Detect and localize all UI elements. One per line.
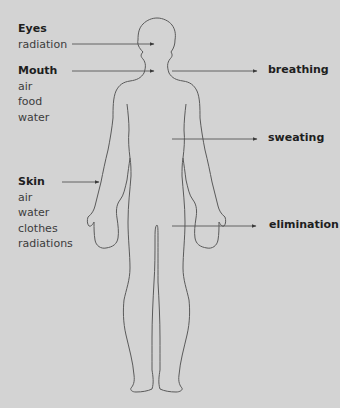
breathing-label: breathing — [268, 63, 329, 76]
eyes-label: Eyes — [18, 21, 67, 37]
skin-item: clothes — [18, 221, 73, 237]
mouth-item: water — [18, 110, 57, 126]
right-arm-inner-line — [183, 104, 186, 158]
skin-label-group: Skin air water clothes radiations — [18, 174, 73, 252]
skin-item: air — [18, 190, 73, 206]
mouth-item: food — [18, 94, 57, 110]
elimination-label: elimination — [269, 218, 339, 231]
sweating-label: sweating — [268, 131, 324, 144]
skin-item: water — [18, 205, 73, 221]
mouth-label: Mouth — [18, 63, 57, 79]
mouth-item: air — [18, 79, 57, 95]
skin-item: radiations — [18, 236, 73, 252]
body-outline — [87, 18, 225, 392]
eyes-label-group: Eyes radiation — [18, 21, 67, 52]
eyes-item: radiation — [18, 37, 67, 53]
left-arm-inner-line — [127, 104, 130, 158]
mouth-label-group: Mouth air food water — [18, 63, 57, 125]
skin-label: Skin — [18, 174, 73, 190]
